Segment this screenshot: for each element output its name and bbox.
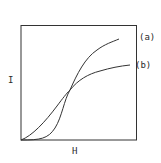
plot-canvas [0, 0, 161, 163]
plot-frame [21, 26, 137, 141]
x-axis-label: H [72, 147, 77, 156]
y-axis-label: I [8, 76, 13, 85]
curve-a-label: (a) [139, 33, 155, 42]
curve-b-label: (b) [135, 61, 151, 70]
curve-b [21, 65, 130, 140]
